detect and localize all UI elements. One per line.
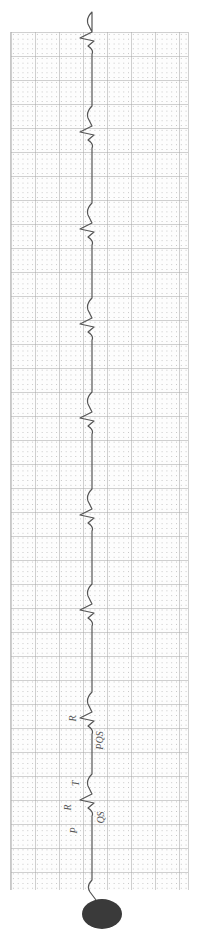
annotation-label: PQS [94,731,105,749]
annotation-label: R [67,715,78,721]
ecg-grid-paper [10,32,189,890]
annotation-label: R [62,804,73,810]
annotation-label: T [70,781,81,787]
annotation-label: QS [95,811,106,823]
annotation-label: P [68,827,79,833]
stamp-seal [82,899,122,929]
